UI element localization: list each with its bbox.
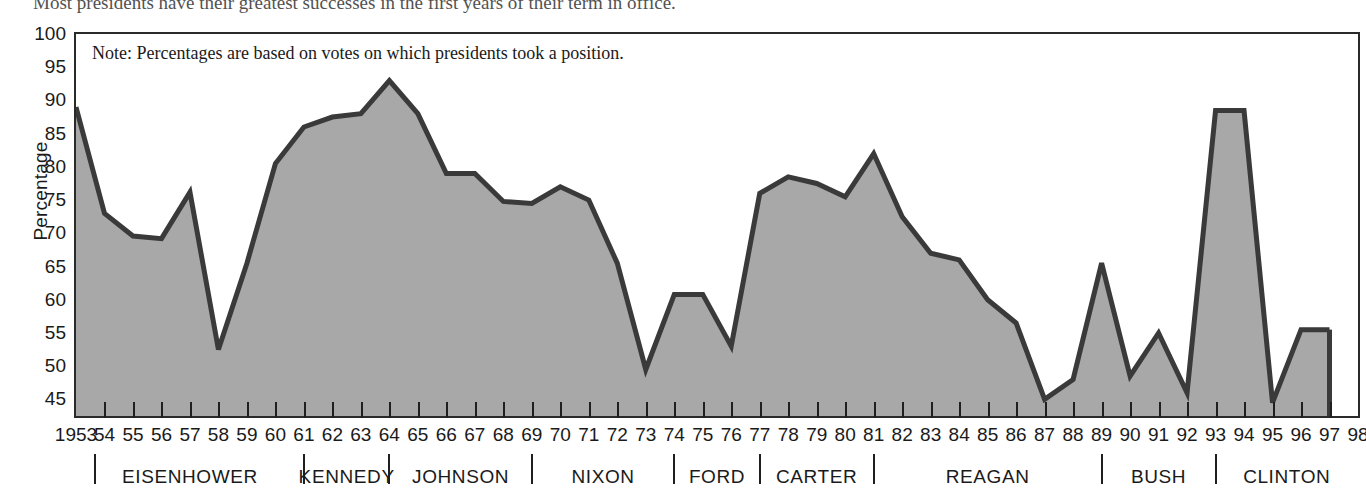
- x-label-80: 80: [835, 424, 856, 446]
- y-tick-100: 100: [18, 24, 66, 43]
- x-tick-89: [1102, 402, 1104, 418]
- x-tick-83: [931, 402, 933, 418]
- x-tick-62: [332, 402, 334, 418]
- x-tick-86: [1016, 402, 1018, 418]
- y-tick-45: 45: [18, 389, 66, 408]
- x-label-60: 60: [265, 424, 286, 446]
- x-tick-69: [532, 402, 534, 418]
- term-divider-start: [94, 454, 96, 484]
- x-label-66: 66: [436, 424, 457, 446]
- x-tick-66: [446, 402, 448, 418]
- x-label-87: 87: [1034, 424, 1055, 446]
- x-tick-78: [788, 402, 790, 418]
- x-tick-77: [760, 402, 762, 418]
- y-axis-tick-labels: 1009590858075706560555045: [18, 32, 66, 418]
- x-tick-72: [617, 402, 619, 418]
- term-label-reagan: REAGAN: [946, 466, 1030, 488]
- figure-caption: Most presidents have their greatest succ…: [33, 0, 1033, 14]
- x-tick-57: [190, 402, 192, 418]
- x-tick-65: [418, 402, 420, 418]
- x-tick-56: [161, 402, 163, 418]
- x-tick-92: [1187, 402, 1189, 418]
- x-label-1953: 1953: [55, 424, 97, 446]
- x-tick-97: [1330, 402, 1332, 418]
- x-label-91: 91: [1148, 424, 1169, 446]
- x-label-65: 65: [407, 424, 428, 446]
- term-divider-bush: [1101, 454, 1103, 484]
- x-tick-63: [361, 402, 363, 418]
- plot-area: [74, 32, 1360, 418]
- x-label-61: 61: [293, 424, 314, 446]
- x-label-69: 69: [521, 424, 542, 446]
- x-label-95: 95: [1262, 424, 1283, 446]
- x-tick-68: [503, 402, 505, 418]
- term-divider-nixon: [531, 454, 533, 484]
- x-axis-tick-labels: 1953545556575859606162636465666768697071…: [0, 424, 1366, 448]
- x-label-97: 97: [1319, 424, 1340, 446]
- x-axis-tick-marks: [74, 402, 1360, 420]
- x-tick-82: [902, 402, 904, 418]
- y-tick-90: 90: [18, 90, 66, 109]
- term-divider-ford: [673, 454, 675, 484]
- y-tick-95: 95: [18, 57, 66, 76]
- y-tick-75: 75: [18, 190, 66, 209]
- x-label-86: 86: [1006, 424, 1027, 446]
- x-label-54: 54: [94, 424, 115, 446]
- x-tick-85: [988, 402, 990, 418]
- x-tick-75: [703, 402, 705, 418]
- y-tick-80: 80: [18, 157, 66, 176]
- x-tick-54: [104, 402, 106, 418]
- x-label-68: 68: [493, 424, 514, 446]
- y-tick-70: 70: [18, 223, 66, 242]
- x-label-81: 81: [863, 424, 884, 446]
- x-label-59: 59: [236, 424, 257, 446]
- area-fill: [76, 81, 1330, 417]
- y-tick-60: 60: [18, 290, 66, 309]
- x-label-58: 58: [208, 424, 229, 446]
- y-tick-55: 55: [18, 323, 66, 342]
- x-tick-90: [1130, 402, 1132, 418]
- term-label-carter: CARTER: [776, 466, 857, 488]
- chart-page: Most presidents have their greatest succ…: [0, 0, 1366, 502]
- x-label-83: 83: [920, 424, 941, 446]
- x-label-78: 78: [778, 424, 799, 446]
- term-divider-reagan: [873, 454, 875, 484]
- x-label-72: 72: [607, 424, 628, 446]
- x-label-98: 98: [1347, 424, 1366, 446]
- x-tick-70: [560, 402, 562, 418]
- x-tick-80: [845, 402, 847, 418]
- x-label-82: 82: [892, 424, 913, 446]
- x-label-92: 92: [1176, 424, 1197, 446]
- term-label-johnson: JOHNSON: [412, 466, 509, 488]
- x-label-55: 55: [122, 424, 143, 446]
- x-tick-76: [731, 402, 733, 418]
- x-label-67: 67: [464, 424, 485, 446]
- x-tick-93: [1216, 402, 1218, 418]
- y-tick-85: 85: [18, 124, 66, 143]
- term-divider-johnson: [388, 454, 390, 484]
- term-label-kennedy: KENNEDY: [299, 466, 395, 488]
- x-tick-79: [817, 402, 819, 418]
- x-tick-60: [275, 402, 277, 418]
- term-label-ford: FORD: [689, 466, 745, 488]
- x-tick-91: [1159, 402, 1161, 418]
- x-label-88: 88: [1063, 424, 1084, 446]
- x-tick-84: [959, 402, 961, 418]
- x-tick-58: [218, 402, 220, 418]
- term-label-bush: BUSH: [1131, 466, 1186, 488]
- x-label-57: 57: [179, 424, 200, 446]
- x-tick-71: [589, 402, 591, 418]
- x-label-75: 75: [692, 424, 713, 446]
- x-label-71: 71: [578, 424, 599, 446]
- x-tick-88: [1073, 402, 1075, 418]
- x-label-96: 96: [1290, 424, 1311, 446]
- x-tick-59: [247, 402, 249, 418]
- x-tick-94: [1244, 402, 1246, 418]
- term-divider-clinton: [1215, 454, 1217, 484]
- x-label-74: 74: [664, 424, 685, 446]
- x-label-84: 84: [949, 424, 970, 446]
- x-label-64: 64: [379, 424, 400, 446]
- x-tick-95: [1273, 402, 1275, 418]
- x-label-73: 73: [635, 424, 656, 446]
- term-label-nixon: NIXON: [571, 466, 634, 488]
